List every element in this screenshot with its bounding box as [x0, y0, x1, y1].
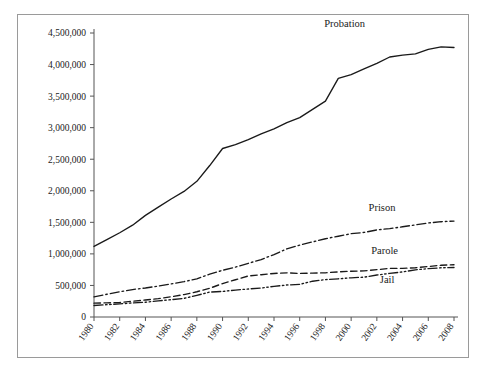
chart-figure: 0500,0001,000,0001,500,0002,000,0002,500…: [17, 14, 469, 358]
series-label-parole: Parole: [371, 245, 398, 256]
y-tick-label: 1,500,000: [48, 218, 86, 228]
x-tick-label: 2000: [334, 321, 353, 343]
x-tick-label: 1990: [205, 321, 224, 343]
series-label-jail: Jail: [380, 274, 395, 285]
x-tick-label: 1984: [128, 321, 147, 343]
y-tick-label: 4,500,000: [48, 28, 86, 38]
y-tick-label: 3,000,000: [48, 123, 86, 133]
x-tick-label: 1982: [102, 321, 121, 343]
x-tick-label: 2004: [385, 321, 404, 343]
x-tick-label: 1992: [231, 321, 250, 343]
x-tick-label: 1994: [257, 321, 276, 343]
x-tick-label: 2006: [411, 321, 430, 343]
series-line-prison: [94, 221, 454, 297]
line-chart: 0500,0001,000,0001,500,0002,000,0002,500…: [18, 15, 468, 357]
x-tick-label: 1998: [308, 321, 327, 343]
y-tick-label: 3,500,000: [48, 92, 86, 102]
series-label-prison: Prison: [369, 202, 397, 213]
x-tick-label: 1986: [154, 321, 173, 343]
y-tick-label: 0: [81, 312, 86, 322]
y-tick-label: 2,000,000: [48, 186, 86, 196]
x-tick-label: 2002: [359, 321, 378, 343]
y-tick-label: 2,500,000: [48, 155, 86, 165]
x-tick-label: 1988: [179, 321, 198, 343]
y-tick-label: 4,000,000: [48, 60, 86, 70]
series-line-probation: [94, 47, 454, 247]
series-line-parole: [94, 265, 454, 303]
y-axis: 0500,0001,000,0001,500,0002,000,0002,500…: [48, 28, 94, 322]
x-axis: 1980198219841986198819901992199419961998…: [77, 317, 458, 343]
y-tick-label: 1,000,000: [48, 249, 86, 259]
x-tick-label: 1980: [77, 321, 96, 343]
y-tick-label: 500,000: [55, 281, 86, 291]
series-lines: [94, 47, 454, 306]
x-tick-label: 1996: [282, 321, 301, 343]
series-label-probation: Probation: [324, 18, 366, 29]
x-tick-label: 2008: [437, 321, 456, 343]
